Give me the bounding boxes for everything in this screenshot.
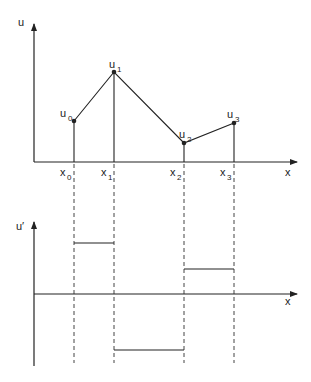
top-x-axis-label: x — [285, 166, 291, 178]
top-y-axis-label: u — [18, 16, 24, 28]
diagram-canvas: u x u 0 u 1 u 2 u 3 x 0 — [0, 0, 311, 382]
piecewise-linear-curve — [74, 72, 234, 143]
node-u2-dot — [182, 141, 187, 146]
svg-text:x: x — [60, 166, 66, 178]
label-x0: x 0 — [60, 166, 72, 182]
label-x1: x 1 — [101, 166, 113, 182]
svg-text:1: 1 — [117, 65, 122, 74]
dashed-guides — [74, 164, 234, 363]
svg-text:2: 2 — [177, 173, 182, 182]
top-plot: u x u 0 u 1 u 2 u 3 x 0 — [18, 16, 297, 182]
svg-text:1: 1 — [108, 173, 113, 182]
svg-text:u: u — [60, 107, 66, 119]
bottom-x-axis-label: x — [285, 295, 291, 307]
bottom-plot: u′ x — [16, 220, 297, 366]
node-u1-dot — [112, 70, 117, 75]
svg-text:x: x — [170, 166, 176, 178]
svg-text:0: 0 — [67, 173, 72, 182]
svg-text:2: 2 — [187, 135, 192, 144]
svg-text:u: u — [109, 58, 115, 70]
svg-text:u: u — [227, 108, 233, 120]
svg-text:3: 3 — [235, 115, 240, 124]
svg-text:0: 0 — [68, 114, 73, 123]
svg-text:3: 3 — [227, 173, 232, 182]
label-u0: u 0 — [60, 107, 73, 123]
svg-text:x: x — [101, 166, 107, 178]
svg-text:x: x — [220, 166, 226, 178]
label-x2: x 2 — [170, 166, 182, 182]
label-x3: x 3 — [220, 166, 232, 182]
bottom-y-axis-label: u′ — [16, 220, 24, 232]
svg-text:u: u — [179, 128, 185, 140]
